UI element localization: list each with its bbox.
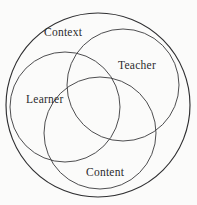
venn-diagram-figure: Context Teacher Learner Content (0, 0, 197, 205)
learner-label: Learner (26, 94, 64, 106)
teacher-label: Teacher (118, 60, 156, 72)
teacher-circle (67, 29, 179, 141)
context-label: Context (44, 27, 82, 39)
content-label: Content (86, 167, 124, 179)
learner-circle (10, 52, 120, 162)
